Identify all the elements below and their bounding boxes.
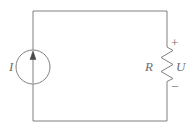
resistor-label: R xyxy=(145,60,153,73)
voltage-label: U xyxy=(176,60,185,73)
resistor-zigzag xyxy=(161,44,173,84)
resistor-symbol xyxy=(161,44,173,84)
circuit-schematic-svg xyxy=(0,0,194,131)
polarity-plus-label: + xyxy=(171,36,178,49)
current-source-symbol xyxy=(16,50,50,84)
circuit-diagram: I R U + − xyxy=(0,0,194,131)
current-source-arrowhead xyxy=(30,51,36,60)
polarity-minus-label: − xyxy=(171,80,178,93)
current-source-label: I xyxy=(9,60,13,73)
